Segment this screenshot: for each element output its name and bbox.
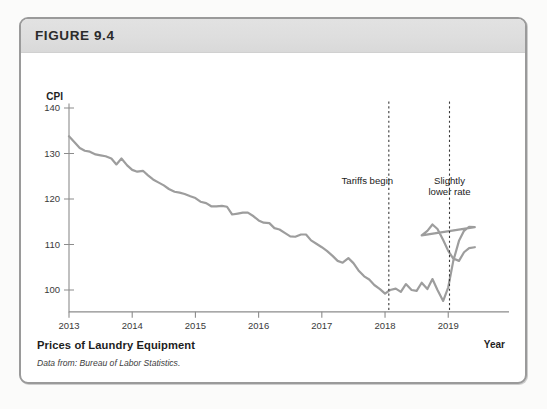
x-tick-label: 2019 — [438, 320, 459, 331]
cpi-line-chart: 100110120130140 201320142015201620172018… — [21, 53, 527, 384]
figure-number-label: FIGURE 9.4 — [35, 28, 115, 43]
annotation-label: Slightly — [434, 175, 465, 186]
page-root: FIGURE 9.4 100110120130140 2013201420152… — [0, 0, 547, 409]
cpi-series-line — [69, 136, 475, 301]
x-axis-ticks: 2013201420152016201720182019 — [58, 312, 458, 332]
x-tick-label: 2018 — [374, 320, 395, 331]
axis-titles: CPIYear — [46, 91, 505, 350]
data-series-group — [69, 136, 475, 301]
figure-container: FIGURE 9.4 100110120130140 2013201420152… — [19, 17, 527, 384]
y-tick-label: 110 — [45, 239, 60, 250]
y-tick-label: 120 — [44, 193, 60, 204]
figure-header-band: FIGURE 9.4 — [21, 19, 525, 53]
chart-axes — [69, 103, 509, 311]
x-tick-label: 2014 — [122, 320, 143, 331]
chart-plot-area: 100110120130140 201320142015201620172018… — [21, 53, 527, 384]
figure-caption: Prices of Laundry Equipment Data from: B… — [37, 339, 497, 368]
x-tick-label: 2016 — [248, 320, 269, 331]
x-tick-label: 2013 — [58, 320, 79, 331]
x-tick-label: 2015 — [185, 320, 206, 331]
y-tick-label: 130 — [44, 148, 60, 159]
annotation-marker-lines — [389, 101, 450, 311]
x-tick-label: 2017 — [311, 320, 332, 331]
y-tick-label: 140 — [44, 102, 60, 113]
annotation-labels: Tariffs beginSlightlylower rate — [342, 175, 471, 197]
y-tick-label: 100 — [44, 284, 60, 295]
y-axis-title: CPI — [46, 91, 63, 102]
figure-source-note: Data from: Bureau of Labor Statistics. — [37, 358, 497, 368]
annotation-label: Tariffs begin — [342, 175, 394, 186]
figure-title: Prices of Laundry Equipment — [37, 339, 497, 351]
annotation-label: lower rate — [428, 186, 470, 197]
